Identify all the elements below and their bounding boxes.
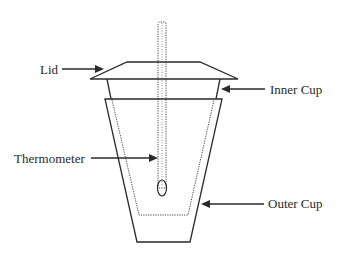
inner-cup-label: Inner Cup <box>270 82 322 97</box>
outer-cup-label: Outer Cup <box>268 196 323 211</box>
thermometer-callout: Thermometer <box>14 151 158 166</box>
lid-arrow-head <box>95 65 104 73</box>
outer-cup-callout: Outer Cup <box>201 196 323 211</box>
inner-cup-callout: Inner Cup <box>221 82 322 97</box>
inner-cup-left-wall <box>107 79 111 99</box>
inner-cup-right-wall <box>216 79 220 99</box>
calorimeter-diagram: Lid Inner Cup Thermometer Outer Cup <box>0 0 340 253</box>
inner-cup-arrow-head <box>221 85 230 93</box>
outer-cup-arrow-head <box>201 200 210 208</box>
outer-cup <box>105 99 222 242</box>
lid-label: Lid <box>40 62 59 77</box>
thermometer-arrow-head <box>149 154 158 162</box>
thermometer-label: Thermometer <box>14 151 85 166</box>
thermometer <box>158 22 167 196</box>
lid <box>90 62 238 79</box>
lid-callout: Lid <box>40 62 104 77</box>
